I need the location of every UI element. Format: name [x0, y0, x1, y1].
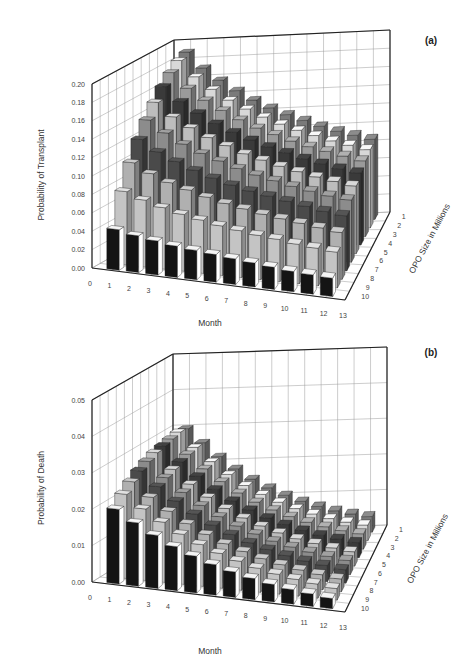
- y-tick-label: 0.18: [71, 99, 85, 106]
- y-tick-label: 0.12: [71, 154, 85, 161]
- z-tick-label: 2: [395, 535, 399, 542]
- x-tick-label: 5: [185, 606, 189, 613]
- x-tick-label: 1: [108, 282, 112, 289]
- x-tick-label: 6: [205, 608, 209, 615]
- bars: [107, 49, 378, 297]
- bar: [146, 531, 163, 589]
- z-tick-label: 10: [361, 605, 369, 612]
- bar: [165, 542, 182, 591]
- y-tick-label: 0.04: [71, 433, 85, 440]
- y-tick-label: 0.00: [71, 579, 85, 586]
- z-tick-label: 1: [402, 213, 406, 220]
- bar: [282, 265, 298, 291]
- x-tick-label: 9: [263, 302, 267, 309]
- x-tick-label: 2: [127, 285, 131, 292]
- bar: [243, 257, 259, 287]
- z-tick-label: 1: [399, 526, 403, 533]
- bar: [107, 225, 124, 270]
- bar: [223, 253, 239, 284]
- z-tick-label: 8: [370, 275, 374, 282]
- y-tick-label: 0.01: [71, 542, 85, 549]
- z-tick-label: 6: [379, 257, 383, 264]
- x-tick-label: 4: [166, 290, 170, 297]
- bar: [301, 588, 316, 607]
- bar: [107, 505, 124, 584]
- x-tick-label: 3: [146, 287, 150, 294]
- x-axis-title: Month: [198, 646, 222, 656]
- y-tick-label: 0.02: [71, 506, 85, 513]
- z-tick-label: 4: [388, 240, 392, 247]
- x-tick-label: 7: [224, 610, 228, 617]
- x-tick-label: 6: [205, 295, 209, 302]
- z-tick-label: 3: [393, 231, 397, 238]
- x-tick-label: 2: [127, 599, 131, 606]
- bar: [320, 592, 335, 609]
- z-tick-label: 5: [382, 561, 386, 568]
- z-tick-label: 9: [365, 596, 369, 603]
- x-tick-label: 1: [108, 596, 112, 603]
- y-axis-title: Probability of Transplant: [36, 129, 46, 221]
- y-tick-label: 0.20: [71, 81, 85, 88]
- z-tick-label: 9: [366, 284, 370, 291]
- y-tick-label: 0.00: [71, 265, 85, 272]
- x-tick-label: 8: [244, 300, 248, 307]
- x-tick-label: 8: [244, 612, 248, 619]
- z-tick-label: 7: [375, 266, 379, 273]
- x-tick-label: 11: [300, 307, 307, 314]
- x-tick-label: 9: [263, 615, 267, 622]
- y-tick-label: 0.10: [71, 173, 85, 180]
- bar: [126, 518, 143, 586]
- x-tick-label: 4: [166, 603, 170, 610]
- z-axis-title: OPO Size in Millions: [407, 202, 452, 275]
- bars: [107, 426, 375, 609]
- bar: [204, 559, 220, 595]
- chart-panel-a: 0.000.020.040.060.080.100.120.140.160.18…: [0, 0, 466, 334]
- z-axis-title: OPO Size in Millions: [405, 512, 450, 585]
- z-tick-label: 5: [384, 249, 388, 256]
- bar: [126, 231, 143, 272]
- bar: [185, 245, 201, 280]
- bar: [262, 579, 278, 602]
- x-tick-label: 10: [281, 305, 289, 312]
- bar: [184, 551, 200, 593]
- bar: [301, 269, 316, 295]
- transplant-3d-bar-chart: 0.000.020.040.060.080.100.120.140.160.18…: [0, 0, 466, 334]
- y-tick-label: 0.16: [71, 117, 85, 124]
- bar: [223, 567, 239, 598]
- z-tick-label: 4: [386, 552, 390, 559]
- x-tick-label: 5: [185, 292, 189, 299]
- x-tick-label: 0: [88, 280, 92, 287]
- y-axis-title: Probability of Death: [36, 451, 46, 525]
- y-tick-label: 0.04: [71, 228, 85, 235]
- bar: [146, 236, 163, 275]
- x-tick-label: 10: [281, 617, 289, 624]
- death-3d-bar-chart: 0.000.010.020.030.040.050123456789101112…: [0, 318, 466, 668]
- z-tick-label: 8: [370, 587, 374, 594]
- y-tick-label: 0.05: [71, 397, 85, 404]
- y-tick-label: 0.14: [71, 136, 85, 143]
- bar: [281, 584, 296, 605]
- x-tick-label: 13: [339, 624, 347, 631]
- bar: [320, 272, 335, 297]
- z-tick-label: 6: [378, 570, 382, 577]
- bar: [204, 249, 220, 282]
- x-tick-label: 3: [146, 601, 150, 608]
- y-tick-label: 0.08: [71, 191, 85, 198]
- z-tick-label: 7: [374, 579, 378, 586]
- y-tick-label: 0.02: [71, 246, 85, 253]
- panel-label: (b): [425, 347, 438, 358]
- x-tick-label: 11: [300, 619, 307, 626]
- x-tick-label: 12: [320, 622, 328, 629]
- z-tick-label: 10: [361, 293, 369, 300]
- y-tick-label: 0.06: [71, 209, 85, 216]
- panel-label: (a): [425, 35, 437, 46]
- x-tick-label: 7: [224, 297, 228, 304]
- chart-panel-b: 0.000.010.020.030.040.050123456789101112…: [0, 318, 466, 668]
- bar: [262, 261, 278, 289]
- y-tick-label: 0.03: [71, 469, 85, 476]
- x-tick-label: 12: [320, 310, 328, 317]
- x-tick-label: 0: [88, 594, 92, 601]
- z-tick-label: 3: [391, 544, 395, 551]
- bar: [243, 573, 259, 600]
- bar: [165, 241, 182, 277]
